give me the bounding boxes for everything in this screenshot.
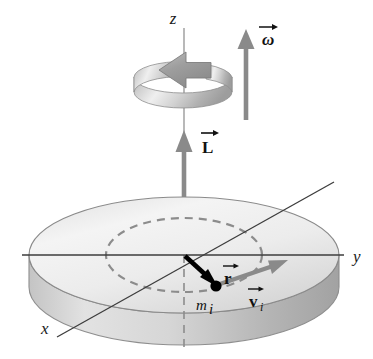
x-axis-label: x [40,319,49,338]
v-subscript: i [260,300,263,314]
omega-arrow-head [238,29,255,49]
mass-point-dot [210,280,221,291]
omega-overarrow-head [272,24,278,30]
ribbon-arrowhead [159,52,211,88]
v-symbol: v [249,292,258,311]
z-axis-label: z [169,9,177,28]
y-axis-label: y [351,247,361,266]
angular-momentum-label: L [201,130,219,157]
mass-symbol: m [196,297,207,313]
rotation-ribbon [134,52,232,108]
L-overarrow-head [213,130,219,136]
mass-subscript: i [209,301,213,317]
angular-momentum-diagram: z ω L y [0,0,373,359]
L-arrow-head [176,130,193,152]
r-symbol: r [224,269,232,288]
omega-symbol: ω [262,30,274,49]
angular-velocity-label: ω [259,24,278,49]
L-symbol: L [202,138,213,157]
angular-velocity-vector [238,29,255,120]
